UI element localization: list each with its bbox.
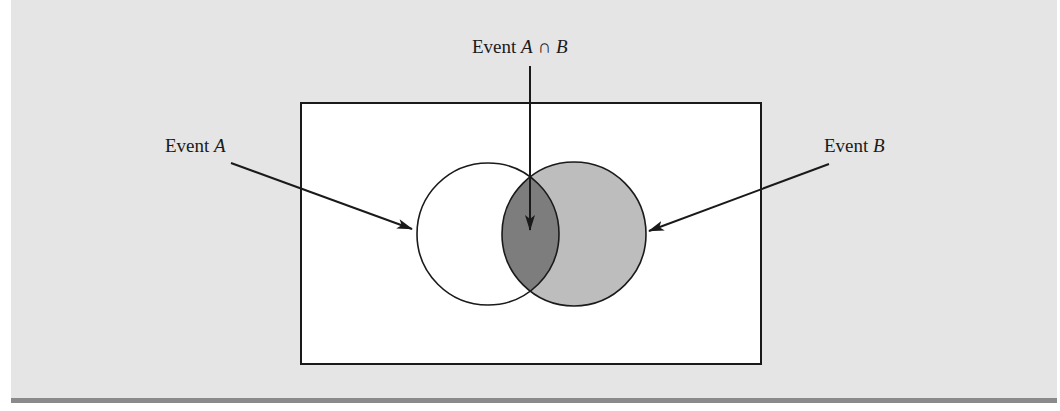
label-event-a: Event A xyxy=(165,135,226,156)
label-event-b: Event B xyxy=(824,135,885,156)
venn-diagram: Event A Event B Event A ∩ B xyxy=(0,0,1060,411)
label-event-intersection: Event A ∩ B xyxy=(472,36,568,57)
